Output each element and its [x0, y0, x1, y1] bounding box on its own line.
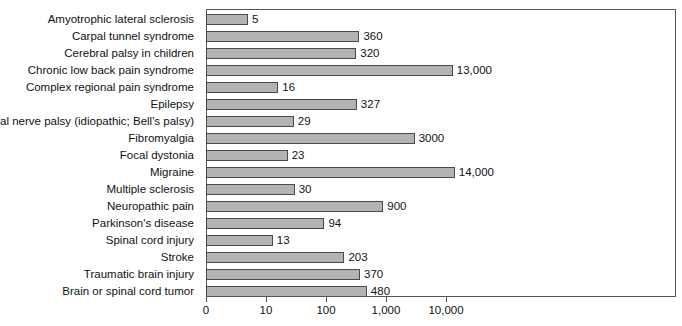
x-tick — [326, 296, 327, 302]
bar — [206, 252, 344, 263]
bar-value-label: 29 — [294, 113, 311, 130]
x-tick — [206, 296, 207, 302]
category-label: Carpal tunnel syndrome — [72, 28, 194, 45]
bar-value-label: 13,000 — [453, 62, 492, 79]
bar — [206, 116, 294, 127]
bar-row: Traumatic brain injury370 — [0, 266, 682, 283]
category-label: Amyotrophic lateral sclerosis — [48, 11, 194, 28]
bar-value-label: 5 — [248, 11, 258, 28]
bar-row: Chronic low back pain syndrome13,000 — [0, 62, 682, 79]
bar-value-label: 360 — [359, 28, 382, 45]
bar — [206, 150, 288, 161]
bar — [206, 82, 278, 93]
bar-value-label: 13 — [273, 232, 290, 249]
category-label: Traumatic brain injury — [84, 266, 194, 283]
x-axis-line — [206, 296, 676, 297]
x-tick-label: 10 — [260, 303, 273, 317]
x-tick-label: 0 — [203, 303, 209, 317]
bar-row: Brain or spinal cord tumor480 — [0, 283, 682, 300]
bar-row: Focal dystonia23 — [0, 147, 682, 164]
bar — [206, 133, 415, 144]
bar-value-label: 327 — [357, 96, 380, 113]
category-label: Chronic low back pain syndrome — [28, 62, 194, 79]
category-label: Cerebral palsy in children — [64, 45, 194, 62]
bar — [206, 201, 383, 212]
bar-row: Multiple sclerosis30 — [0, 181, 682, 198]
bar-row: Stroke203 — [0, 249, 682, 266]
category-label: Facial nerve palsy (idiopathic; Bell's p… — [0, 113, 194, 130]
category-label: Fibromyalgia — [128, 130, 194, 147]
category-label: Complex regional pain syndrome — [26, 79, 194, 96]
bar-row: Neuropathic pain900 — [0, 198, 682, 215]
category-label: Brain or spinal cord tumor — [62, 283, 194, 300]
category-label: Parkinson's disease — [92, 215, 194, 232]
bar — [206, 14, 248, 25]
bar-row: Epilepsy327 — [0, 96, 682, 113]
bar-value-label: 370 — [360, 266, 383, 283]
bar-value-label: 16 — [278, 79, 295, 96]
x-tick-label: 10,000 — [428, 303, 463, 317]
bar-value-label: 23 — [288, 147, 305, 164]
bar — [206, 65, 453, 76]
category-label: Focal dystonia — [120, 147, 194, 164]
bar-row: Carpal tunnel syndrome360 — [0, 28, 682, 45]
x-tick — [266, 296, 267, 302]
bar-value-label: 320 — [356, 45, 379, 62]
bar-value-label: 14,000 — [455, 164, 494, 181]
bar — [206, 31, 359, 42]
category-label: Epilepsy — [151, 96, 194, 113]
bar-row: Parkinson's disease94 — [0, 215, 682, 232]
bar-value-label: 900 — [383, 198, 406, 215]
bar — [206, 184, 295, 195]
bar-row: Amyotrophic lateral sclerosis5 — [0, 11, 682, 28]
bar-row: Fibromyalgia3000 — [0, 130, 682, 147]
bar-value-label: 94 — [324, 215, 341, 232]
bar — [206, 235, 273, 246]
bar-value-label: 30 — [295, 181, 312, 198]
bar-chart: Amyotrophic lateral sclerosis5Carpal tun… — [0, 0, 682, 326]
bar — [206, 269, 360, 280]
bar — [206, 167, 455, 178]
category-label: Spinal cord injury — [106, 232, 194, 249]
category-label: Neuropathic pain — [107, 198, 194, 215]
category-label: Migraine — [150, 164, 194, 181]
bar-row: Complex regional pain syndrome16 — [0, 79, 682, 96]
x-tick — [446, 296, 447, 302]
x-tick-label: 100 — [316, 303, 335, 317]
bar — [206, 48, 356, 59]
category-label: Stroke — [161, 249, 194, 266]
x-tick-label: 1,000 — [372, 303, 401, 317]
bar-value-label: 3000 — [415, 130, 445, 147]
bar — [206, 99, 357, 110]
bar-row: Spinal cord injury13 — [0, 232, 682, 249]
bar-row: Migraine14,000 — [0, 164, 682, 181]
bar — [206, 218, 324, 229]
category-label: Multiple sclerosis — [106, 181, 194, 198]
bar-value-label: 203 — [344, 249, 367, 266]
bar-row: Cerebral palsy in children320 — [0, 45, 682, 62]
bar-row: Facial nerve palsy (idiopathic; Bell's p… — [0, 113, 682, 130]
x-tick — [386, 296, 387, 302]
